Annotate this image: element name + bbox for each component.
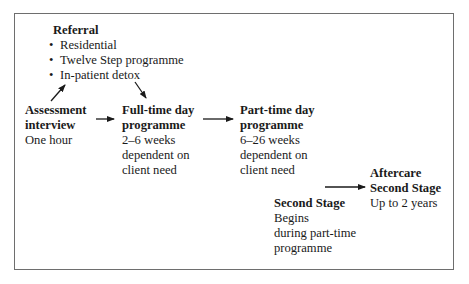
arrows-layer [0,0,469,284]
arrow-referral-to-full-time-icon [135,82,146,98]
arrow-assessment-to-referral-icon [51,85,65,101]
